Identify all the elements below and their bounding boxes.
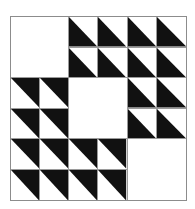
triangle-upper-right-icon [40,78,68,108]
triangle-lower-left-icon [128,109,156,139]
triangle-upper-right-icon [98,170,126,201]
triangle-lower-left-icon [128,17,156,47]
grid-cell-r4-c1 [40,139,69,170]
triangle-lower-left-icon [128,48,156,78]
grid-cell-r3-c1 [40,109,69,140]
quilt-diagram-canvas [0,0,195,209]
grid-cell-r0-c2 [69,17,98,48]
center-blank [69,78,127,139]
grid-cell-r2-c0 [11,78,40,109]
triangle-lower-left-icon [157,17,186,47]
grid-cell-r0-c3 [98,17,127,48]
triangle-lower-left-icon [69,48,97,78]
triangle-upper-right-icon [98,139,126,169]
grid-cell-r1-c5 [157,48,186,79]
grid-cell-r5-c2 [69,170,98,201]
grid-cell-r4-c2 [69,139,98,170]
triangle-upper-right-icon [11,78,39,108]
grid-cell-r4-c0 [11,139,40,170]
triangle-lower-left-icon [157,109,186,139]
grid-cell-r1-c2 [69,48,98,79]
triangle-upper-right-icon [11,170,39,201]
grid-cell-r4-c3 [98,139,127,170]
bottom-right-blank [128,139,186,200]
triangle-upper-right-icon [69,170,97,201]
grid-cell-r0-c4 [128,17,157,48]
grid-cell-r5-c3 [98,170,127,201]
grid-cell-r1-c4 [128,48,157,79]
grid-cell-r1-c3 [98,48,127,79]
grid-cell-r5-c1 [40,170,69,201]
quilt-grid [10,16,187,201]
triangle-lower-left-icon [157,48,186,78]
grid-cell-r2-c1 [40,78,69,109]
triangle-lower-left-icon [98,48,126,78]
grid-cell-r3-c5 [157,109,186,140]
grid-cell-r2-c5 [157,78,186,109]
triangle-lower-left-icon [98,17,126,47]
triangle-upper-right-icon [40,109,68,139]
grid-cell-r3-c4 [128,109,157,140]
triangle-upper-right-icon [40,170,68,201]
triangle-upper-right-icon [11,109,39,139]
triangle-upper-right-icon [40,139,68,169]
triangle-lower-left-icon [69,17,97,47]
grid-cell-r2-c4 [128,78,157,109]
grid-cell-r5-c0 [11,170,40,201]
triangle-lower-left-icon [157,78,186,108]
grid-cell-r0-c5 [157,17,186,48]
triangle-upper-right-icon [11,139,39,169]
triangle-lower-left-icon [128,78,156,108]
triangle-upper-right-icon [69,139,97,169]
top-left-blank [11,17,69,78]
grid-cell-r3-c0 [11,109,40,140]
